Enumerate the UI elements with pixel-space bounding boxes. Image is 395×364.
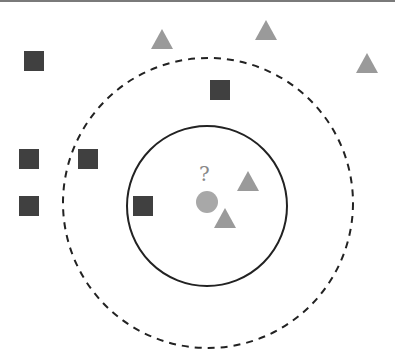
square-point	[19, 196, 39, 216]
triangle-point	[214, 208, 236, 228]
triangle-point	[255, 20, 277, 40]
knn-diagram	[0, 0, 395, 364]
square-point	[24, 51, 44, 71]
query-point	[196, 191, 218, 213]
query-label: ?	[199, 162, 210, 186]
square-point	[133, 196, 153, 216]
triangle-point	[356, 53, 378, 73]
square-point	[19, 149, 39, 169]
triangle-point	[151, 29, 173, 49]
square-point	[210, 80, 230, 100]
triangle-point	[237, 171, 259, 191]
square-point	[78, 149, 98, 169]
